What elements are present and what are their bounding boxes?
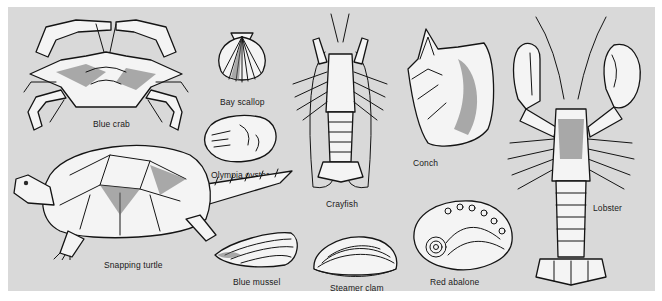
conch-illustration: [398, 19, 498, 154]
crayfish-illustration: [283, 12, 398, 192]
label-crayfish: Crayfish: [326, 199, 358, 209]
steamer-clam-illustration: [308, 233, 403, 281]
bay-scallop-illustration: [213, 29, 271, 89]
label-blue-mussel: Blue mussel: [233, 277, 280, 287]
label-lobster: Lobster: [593, 203, 622, 213]
blue-mussel-illustration: [211, 229, 301, 271]
label-blue-crab: Blue crab: [93, 119, 130, 129]
label-conch: Conch: [413, 158, 438, 168]
label-red-abalone: Red abalone: [430, 277, 479, 287]
lobster-illustration: [496, 9, 646, 291]
label-steamer-clam: Steamer clam: [330, 283, 384, 293]
label-snapping-turtle: Snapping turtle: [104, 260, 163, 270]
red-abalone-illustration: [408, 195, 518, 275]
illustration-panel: Blue crab Bay scallop Olympia oyster: [8, 7, 655, 291]
label-bay-scallop: Bay scallop: [220, 97, 265, 107]
